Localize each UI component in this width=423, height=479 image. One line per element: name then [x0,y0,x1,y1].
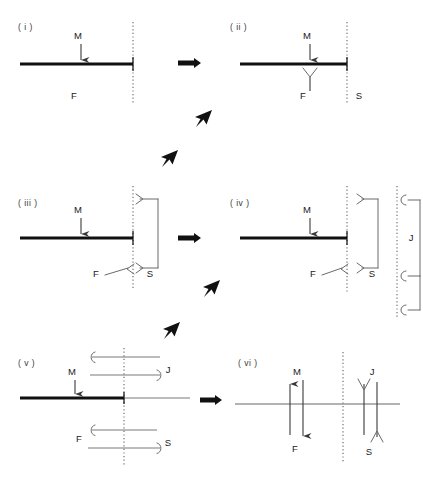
symbol-f-ii: F [300,90,306,101]
panel-ii: ( ii ) M F S [230,22,362,104]
symbol-s-v: S [165,437,171,448]
flow-s-out-v [88,443,161,454]
panel-label-vi: ( vi ) [238,358,258,368]
symbol-j-v: J [166,364,171,375]
arrow-v-to-vi [200,395,222,405]
j-arrow-vi [358,379,370,435]
s-bracket-iv [357,194,378,273]
symbol-m-ii: M [303,30,311,41]
panel-vi: ( vi ) M F J S [235,352,400,462]
symbol-s-ii: S [356,90,362,101]
panel-label-i: ( i ) [18,22,33,32]
mechanism-figure: ( i ) M F ( ii ) M F S ( iii ) [0,0,423,479]
flow-j-out-v [90,370,161,381]
symbol-f-iii: F [93,268,99,279]
arrow-iii-to-iv [178,233,201,243]
symbol-m-i: M [74,30,82,41]
j-bracket-lower-iv [401,276,420,315]
transition-arrows [161,58,222,405]
symbol-m-iii: M [74,204,82,215]
symbol-m-v: M [68,366,76,377]
panel-i: ( i ) M F [18,22,133,104]
panel-v: ( v ) M F S J [18,348,190,465]
flow-j-in-v [91,352,160,363]
symbol-s-iv: S [369,268,375,279]
symbol-j-vi: J [370,366,375,377]
flow-f-in-v [91,425,157,436]
panel-label-iv: ( iv ) [230,198,250,208]
symbol-s-vi: S [366,446,372,457]
arrow-i-to-ii [178,58,201,68]
figure-canvas: ( i ) M F ( ii ) M F S ( iii ) [0,0,423,479]
symbol-f-iv: F [310,268,316,279]
panel-iii: ( iii ) M F S [18,186,158,290]
f-pointer-iii [105,264,134,275]
s-arrow-vi [371,382,383,442]
symbol-m-vi: M [293,366,301,377]
s-bracket-iii [136,194,158,273]
f-outlet-ii [303,68,317,91]
symbol-f-i: F [71,90,77,101]
arrow-iv-to-v-b [163,322,180,339]
panel-iv: ( iv ) [230,186,420,318]
panel-label-v: ( v ) [18,358,35,368]
symbol-s-iii: S [147,268,153,279]
symbol-f-vi: F [292,443,298,454]
panel-label-iii: ( iii ) [18,198,38,208]
arrow-ii-to-iii-b [161,150,178,167]
symbol-f-v: F [76,433,82,444]
symbol-j-iv: J [409,232,414,243]
arrow-iv-to-v-a [203,280,220,297]
panel-label-ii: ( ii ) [230,22,247,32]
symbol-m-iv: M [303,204,311,215]
f-pointer-iv [322,264,348,275]
arrow-ii-to-iii-a [195,110,212,127]
